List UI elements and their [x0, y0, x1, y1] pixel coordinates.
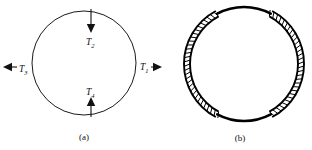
hatch-tick	[201, 100, 204, 106]
hatch-tick	[282, 102, 288, 105]
hatch-tick	[195, 30, 201, 32]
hatch-tick	[207, 17, 212, 20]
force-arrow-t2	[87, 9, 95, 33]
hatch-tick	[282, 20, 285, 26]
panel-a: T2 T4 T3 T1	[3, 9, 162, 117]
hatch-tick	[289, 29, 293, 34]
hatch-tick	[296, 79, 302, 80]
hatch-tick	[204, 102, 207, 108]
hatch-tick	[197, 26, 203, 28]
hatch-tick	[186, 49, 192, 50]
hatch-tick	[203, 20, 209, 23]
hatch-tick	[210, 14, 215, 18]
ring-hatching-b	[184, 10, 304, 118]
hatch-tick	[289, 93, 295, 94]
hatch-tick	[198, 97, 201, 102]
hatch-tick	[186, 76, 191, 80]
hatch-tick	[195, 93, 199, 98]
force-label-t4: T4	[86, 87, 95, 99]
hatch-tick	[298, 57, 304, 60]
force-arrow-t1	[151, 63, 162, 71]
hatch-tick	[273, 110, 278, 114]
hatch-tick	[184, 68, 190, 71]
hatch-tick	[287, 97, 293, 99]
figure-svg: T2 T4 T3 T1	[0, 0, 312, 150]
figure-container: T2 T4 T3 T1	[0, 0, 312, 150]
hatch-tick	[187, 79, 192, 83]
force-label-t1: T1	[140, 62, 149, 74]
hatch-tick	[269, 10, 270, 16]
force-label-t3: T3	[19, 64, 28, 76]
hatch-tick	[193, 90, 197, 95]
hatch-tick	[214, 110, 215, 116]
hatch-tick	[276, 14, 278, 20]
hatch-tick	[193, 33, 199, 34]
hatch-tick	[191, 87, 195, 92]
hatch-tick	[297, 49, 302, 53]
hatch-tick	[200, 23, 206, 26]
bottom-plain-arc	[217, 114, 271, 121]
force-arrow-t2-head	[87, 24, 95, 33]
hatch-tick	[185, 72, 191, 75]
hatch-tick	[189, 83, 194, 87]
hatch-tick	[190, 37, 196, 38]
force-label-t2: T2	[86, 37, 95, 49]
hatch-tick	[285, 23, 288, 29]
panel-b	[184, 7, 304, 121]
force-arrow-t3-head	[3, 63, 12, 71]
hatch-tick	[279, 17, 281, 23]
hatch-tick	[218, 112, 219, 118]
hatch-tick	[285, 100, 291, 102]
top-plain-arc	[217, 7, 271, 14]
ring-circle-a	[32, 11, 136, 115]
caption-b: (b)	[235, 133, 246, 143]
force-arrow-t1-head	[153, 63, 162, 71]
hatch-tick	[296, 45, 301, 49]
hatch-tick	[276, 108, 281, 111]
caption-a: (a)	[79, 132, 89, 142]
hatch-tick	[297, 53, 303, 56]
hatch-tick	[291, 90, 297, 91]
hatch-tick	[210, 108, 212, 114]
hatch-tick	[291, 33, 295, 38]
hatch-tick	[279, 105, 285, 108]
hatch-tick	[293, 37, 297, 42]
hatch-tick	[207, 105, 209, 111]
force-arrow-t3	[3, 63, 17, 71]
hatch-tick	[287, 26, 290, 31]
hatch-tick	[295, 41, 300, 45]
hatch-tick	[273, 12, 274, 18]
